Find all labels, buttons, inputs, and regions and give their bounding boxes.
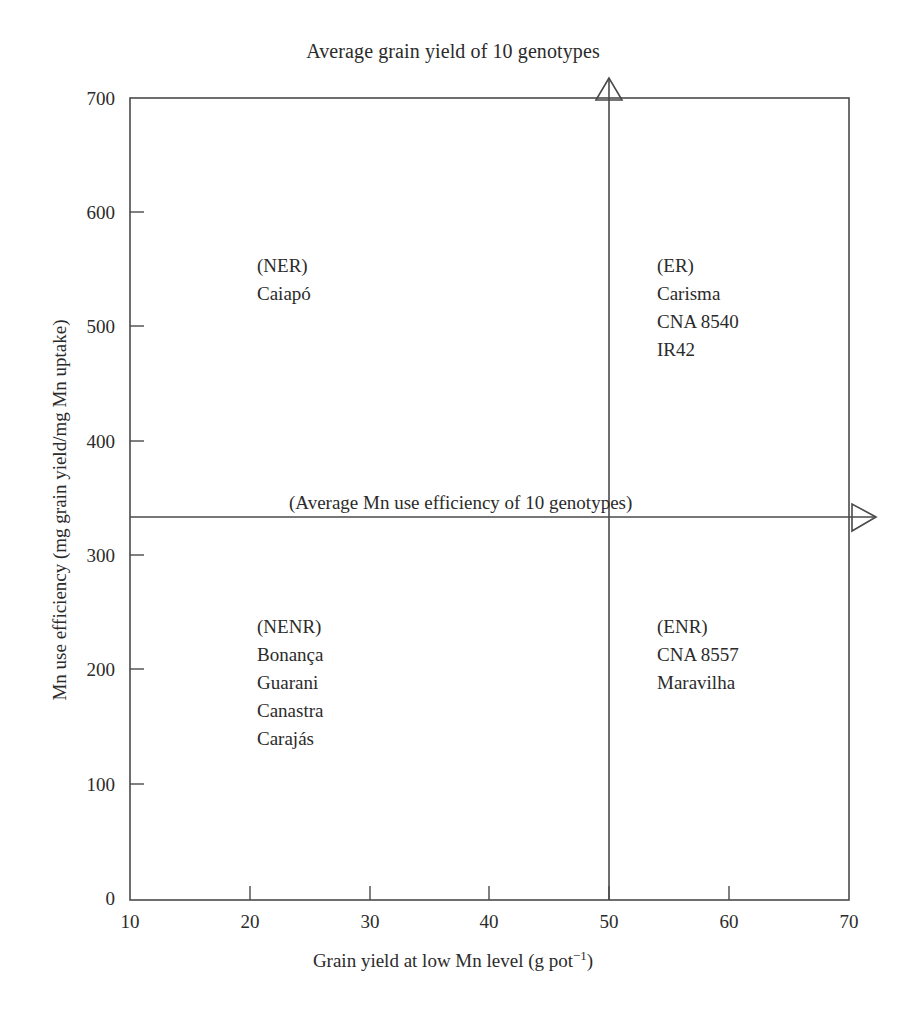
chart-figure: Average grain yield of 10 genotypes Mn u… <box>0 0 906 1016</box>
quadrant-code-ner: (NER) <box>257 252 311 280</box>
genotype-guarani: Guarani <box>257 669 323 697</box>
genotype-carajas: Carajás <box>257 725 323 753</box>
y-axis-ticks <box>130 212 144 784</box>
divider-caption: (Average Mn use efficiency of 10 genotyp… <box>289 492 632 514</box>
genotype-canastra: Canastra <box>257 697 323 725</box>
quadrant-label-er: (ER) Carisma CNA 8540 IR42 <box>657 252 739 364</box>
quadrant-code-er: (ER) <box>657 252 739 280</box>
genotype-caiapo: Caiapó <box>257 280 311 308</box>
genotype-maravilha: Maravilha <box>657 669 739 697</box>
genotype-bonanca: Bonança <box>257 641 323 669</box>
quadrant-code-nenr: (NENR) <box>257 613 323 641</box>
quadrant-label-enr: (ENR) CNA 8557 Maravilha <box>657 613 739 697</box>
quadrant-label-nenr: (NENR) Bonança Guarani Canastra Carajás <box>257 613 323 754</box>
quadrant-code-enr: (ENR) <box>657 613 739 641</box>
genotype-cna-8540: CNA 8540 <box>657 308 739 336</box>
quadrant-label-ner: (NER) Caiapó <box>257 252 311 308</box>
x-axis-ticks <box>250 886 729 900</box>
genotype-carisma: Carisma <box>657 280 739 308</box>
genotype-cna-8557: CNA 8557 <box>657 641 739 669</box>
genotype-ir42: IR42 <box>657 336 739 364</box>
